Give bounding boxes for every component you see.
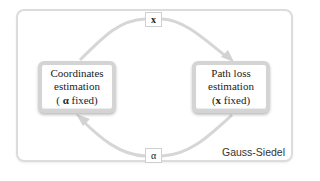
condition-suffix: fixed) [221,94,250,106]
node-line: estimation [208,80,254,94]
path-loss-estimation-node: Path loss estimation (x fixed) [192,61,270,113]
coordinates-estimation-node: Coordinates estimation ( α fixed) [38,61,116,113]
arrow-top-to-path-loss [80,19,145,60]
node-line: Path loss [211,67,250,81]
node-condition: (x fixed) [212,94,250,108]
node-line: estimation [54,80,100,94]
edge-label-x: x [145,12,162,27]
frame-caption: Gauss-Siedel [222,146,285,158]
edge-label-alpha: α [145,148,162,163]
condition-suffix: fixed) [69,94,98,106]
node-condition: ( α fixed) [56,94,98,108]
node-line: Coordinates [50,67,103,81]
